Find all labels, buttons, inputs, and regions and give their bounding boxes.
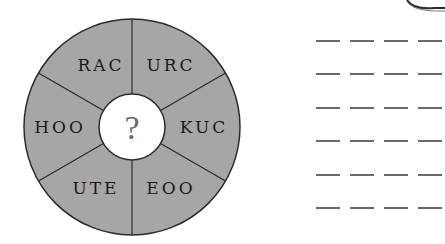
segment-label-ute: UTE	[72, 178, 119, 198]
letter-blank	[316, 174, 340, 176]
letter-blank	[316, 140, 340, 142]
answer-row-5	[316, 174, 442, 176]
letter-blank	[418, 174, 442, 176]
answer-blanks	[316, 0, 432, 244]
puzzle-wheel: ? RAC URC KUC EOO UTE HOO	[0, 0, 270, 244]
letter-blank	[384, 174, 408, 176]
letter-blank	[350, 140, 374, 142]
segment-label-eoo: EOO	[146, 178, 195, 198]
center-question-mark: ?	[124, 109, 139, 146]
letter-blank	[350, 174, 374, 176]
segment-label-kuc: KUC	[180, 117, 228, 137]
letter-blank	[418, 107, 442, 109]
answer-row-2	[316, 73, 442, 75]
answer-row-1	[316, 40, 442, 42]
letter-blank	[384, 73, 408, 75]
letter-blank	[316, 107, 340, 109]
letter-blank	[384, 40, 408, 42]
letter-blank	[384, 140, 408, 142]
letter-blank	[350, 107, 374, 109]
letter-blank	[350, 40, 374, 42]
segment-label-hoo: HOO	[34, 117, 86, 137]
letter-blank	[418, 73, 442, 75]
answer-row-3	[316, 107, 442, 109]
letter-blank	[384, 207, 408, 209]
letter-blank	[350, 207, 374, 209]
answer-row-4	[316, 140, 442, 142]
letter-blank	[418, 40, 442, 42]
answer-row-6	[316, 207, 442, 209]
letter-blank	[316, 207, 340, 209]
letter-blank	[418, 207, 442, 209]
segment-label-rac: RAC	[77, 55, 124, 75]
letter-blank	[350, 73, 374, 75]
segment-label-urc: URC	[146, 55, 195, 75]
letter-blank	[418, 140, 442, 142]
letter-blank	[384, 107, 408, 109]
letter-blank	[316, 73, 340, 75]
letter-blank	[316, 40, 340, 42]
